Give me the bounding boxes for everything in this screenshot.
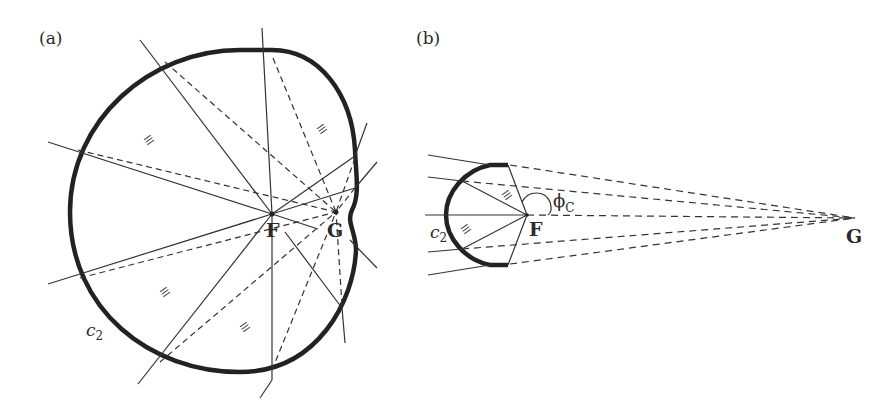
curve-label-b-sub: 2	[440, 231, 448, 245]
panel-label-a: (a)	[39, 28, 62, 48]
curve-label-a-main: c	[86, 320, 96, 340]
curve-label-b: c2	[430, 222, 447, 245]
angle-label-main: ϕ	[553, 190, 565, 211]
point-F-label-a: F	[266, 219, 280, 241]
angle-label-sub: C	[565, 201, 574, 215]
point-F-label-b: F	[529, 218, 543, 240]
angle-label-phiC: ϕC	[553, 190, 574, 215]
curve-c2-a	[70, 50, 357, 372]
panel-label-b: (b)	[416, 28, 440, 48]
point-G-label-a: G	[327, 219, 343, 241]
diagram-canvas	[0, 0, 894, 416]
curve-label-b-main: c	[430, 222, 440, 242]
focus-F-dot-b	[525, 213, 529, 217]
solid-rays-b	[425, 155, 527, 275]
point-G-dot-a	[334, 210, 339, 215]
dashed-rays-a	[78, 58, 355, 370]
panel-b-diagram	[425, 155, 855, 275]
curve-label-a-sub: 2	[96, 329, 104, 343]
curve-label-a: c2	[86, 320, 103, 343]
focus-F-dot-a	[270, 212, 275, 217]
point-G-label-b: G	[846, 225, 862, 247]
